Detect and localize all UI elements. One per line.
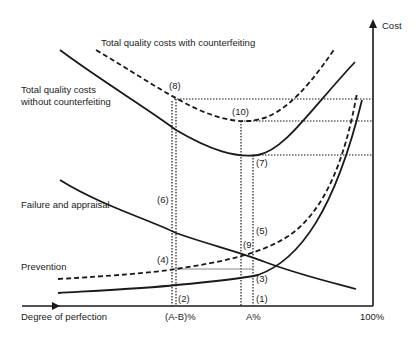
guide-lines [172,99,373,306]
tick-label-a-minus-b: (A-B)% [165,311,196,322]
quality-cost-diagram: Cost Degree of perfection (A-B)% A% 100%… [0,0,418,343]
label-total-without-line1: Total quality costs [21,84,96,95]
curve-total-with-counterfeiting [96,48,335,121]
label-prevention: Prevention [21,261,66,272]
point-label-8: (8) [169,80,181,91]
point-label-5: (5) [256,225,268,236]
label-failure-appraisal: Failure and appraisal [21,199,110,210]
y-axis-arrow-icon [369,19,377,28]
axes [22,19,377,310]
curve-failure-appraisal [60,180,356,289]
curve-prevention-with [58,93,357,279]
curves [58,48,362,293]
point-label-4: (4) [157,254,169,265]
x-axis-label: Degree of perfection [21,311,107,322]
y-axis-label: Cost [382,20,402,31]
label-total-with-counterfeiting: Total quality costs with counterfeiting [101,37,255,48]
point-label-10: (10) [232,106,249,117]
tick-label-100: 100% [360,311,385,322]
point-label-7: (7) [256,157,268,168]
point-label-9: (9 [243,239,251,250]
point-label-3: (3) [256,273,268,284]
tick-label-a: A% [246,311,261,322]
point-label-6: (6) [157,194,169,205]
label-total-without-line2: without counterfeiting [20,96,111,107]
x-axis-arrow-icon [52,302,60,310]
point-label-2: (2) [178,293,190,304]
point-label-1: (1) [256,293,268,304]
